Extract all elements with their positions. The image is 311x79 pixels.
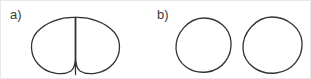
cell-outline-b-right [243, 17, 302, 73]
cell-outline-b-left [176, 18, 231, 72]
panel-b-drawing [1, 1, 311, 79]
figure-panel-container: a) b) [0, 0, 311, 79]
